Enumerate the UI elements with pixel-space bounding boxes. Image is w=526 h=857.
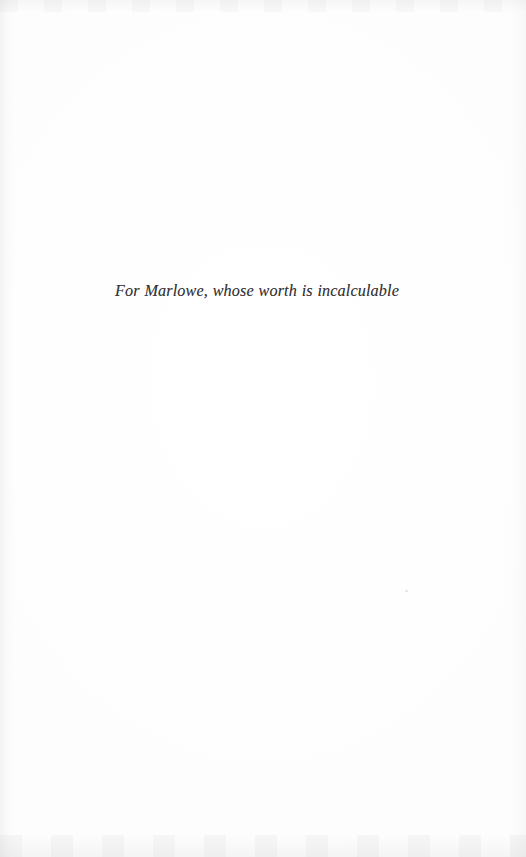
- paper-texture: [0, 0, 526, 857]
- book-page: For Marlowe, whose worth is incalculable: [0, 0, 526, 857]
- scan-speck: [405, 590, 408, 592]
- scan-vignette-right: [508, 0, 526, 857]
- scan-smudge-top: [0, 0, 526, 12]
- dedication-block: For Marlowe, whose worth is incalculable: [0, 281, 526, 301]
- dedication-text: For Marlowe, whose worth is incalculable: [115, 281, 399, 301]
- scan-smudge-bottom: [0, 835, 526, 857]
- scan-vignette-left: [0, 0, 16, 857]
